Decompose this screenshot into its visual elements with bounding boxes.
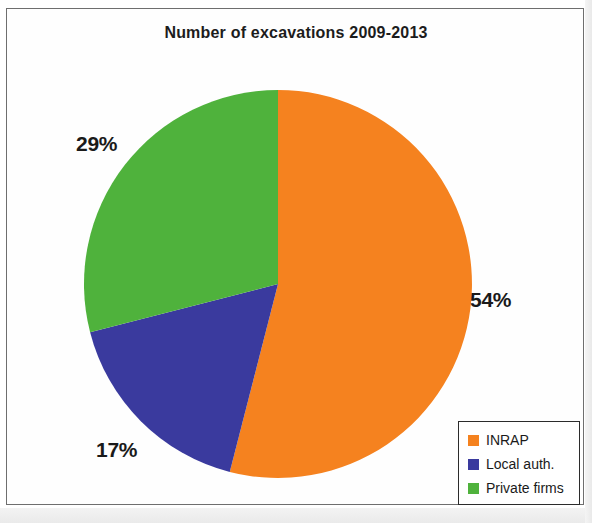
data-label-private-firms: 29%: [76, 132, 117, 156]
legend-label-private-firms: Private firms: [486, 480, 564, 496]
legend-item-private-firms: Private firms: [468, 476, 579, 500]
scan-edge-bottom: [0, 508, 592, 523]
pie-plot-area: [82, 88, 474, 480]
chart-legend: INRAP Local auth. Private firms: [458, 421, 580, 505]
legend-swatch-icon-private-firms: [468, 483, 479, 494]
data-label-local-auth: 17%: [96, 438, 137, 462]
legend-swatch-icon-inrap: [468, 435, 479, 446]
data-label-inrap: 54%: [470, 288, 511, 312]
legend-label-local-auth: Local auth.: [486, 456, 555, 472]
pie-svg: [82, 88, 474, 480]
legend-item-inrap: INRAP: [468, 428, 579, 452]
legend-label-inrap: INRAP: [486, 432, 529, 448]
legend-item-local-auth: Local auth.: [468, 452, 579, 476]
legend-swatch-icon-local-auth: [468, 459, 479, 470]
scan-edge-right: [585, 0, 592, 523]
pie-chart-figure: Number of excavations 2009-2013 29% 54% …: [0, 0, 592, 523]
chart-title: Number of excavations 2009-2013: [0, 24, 592, 42]
